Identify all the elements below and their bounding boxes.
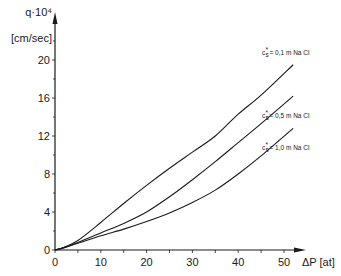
- series-label-2: c*s= 1,0 m Na Cl: [262, 141, 310, 153]
- axes: 04812162001020304050q·10⁴[cm/sec]ΔP [at]: [11, 6, 335, 268]
- y-tick-label: 8: [44, 168, 50, 180]
- y-axis-unit: [cm/sec]: [11, 32, 52, 44]
- y-tick-label: 20: [38, 54, 50, 66]
- y-tick-label: 4: [44, 206, 50, 218]
- series-line-2: [55, 128, 293, 250]
- x-axis-arrow-icon: [294, 248, 306, 253]
- y-tick-label: 16: [38, 92, 50, 104]
- y-tick-label: 0: [44, 244, 50, 256]
- series-label-text: = 0,5 m Na Cl: [270, 112, 310, 119]
- series-line-1: [55, 96, 293, 250]
- x-axis-title: ΔP [at]: [302, 256, 335, 268]
- series-line-0: [55, 65, 293, 250]
- series-label-0: c*s= 0,1 m Na Cl: [262, 46, 310, 58]
- series-label-text: = 0,1 m Na Cl: [270, 49, 310, 56]
- y-axis-title: q·10⁴: [25, 6, 52, 18]
- y-tick-label: 12: [38, 130, 50, 142]
- x-tick-label: 30: [186, 256, 198, 268]
- series-label-text: = 1,0 m Na Cl: [270, 144, 310, 151]
- series-label-1: c*s= 0,5 m Na Cl: [262, 109, 310, 121]
- y-axis-arrow-icon: [53, 12, 58, 24]
- x-tick-label: 0: [52, 256, 58, 268]
- series-labels: c*s= 0,1 m Na Clc*s= 0,5 m Na Clc*s= 1,0…: [262, 46, 310, 153]
- chart: 04812162001020304050q·10⁴[cm/sec]ΔP [at]…: [0, 0, 341, 276]
- x-tick-label: 50: [278, 256, 290, 268]
- x-tick-label: 10: [95, 256, 107, 268]
- series-lines: [55, 65, 293, 250]
- x-tick-label: 20: [140, 256, 152, 268]
- x-tick-label: 40: [232, 256, 244, 268]
